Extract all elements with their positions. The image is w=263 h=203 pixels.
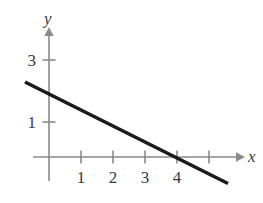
x-tick-label-4: 4 (166, 169, 188, 186)
coordinate-plane (0, 0, 263, 203)
y-tick-label-3: 3 (14, 52, 36, 69)
x-tick-label-3: 3 (134, 169, 156, 186)
x-tick-label-1: 1 (70, 169, 92, 186)
x-axis-arrow-icon (236, 152, 245, 162)
y-axis-label: y (44, 10, 52, 27)
y-tick-label-1: 1 (14, 114, 36, 131)
plotted-line (25, 82, 228, 184)
graph-figure: 3 1 1 2 3 4 y x (0, 0, 263, 203)
x-axis-label: x (248, 148, 256, 165)
y-axis-arrow-icon (44, 27, 53, 36)
x-tick-label-2: 2 (102, 169, 124, 186)
